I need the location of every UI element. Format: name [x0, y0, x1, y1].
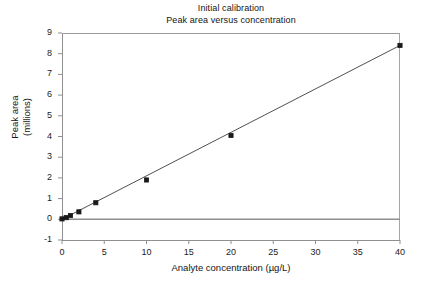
- calibration-chart-figure: Initial calibration Peak area versus con…: [0, 0, 422, 282]
- y-axis-title-line2: (millions): [21, 52, 33, 182]
- x-axis-line: [62, 240, 400, 241]
- x-tick-label: 25: [261, 247, 285, 257]
- plot-frame-right: [399, 33, 400, 240]
- x-tick-label: 35: [346, 247, 370, 257]
- y-tick-label: -1: [34, 234, 52, 244]
- y-tick-label: 4: [34, 131, 52, 141]
- x-tick-label: 0: [50, 247, 74, 257]
- y-tick-label: 6: [34, 89, 52, 99]
- x-tick-label: 5: [92, 247, 116, 257]
- y-tick-label: 1: [34, 193, 52, 203]
- y-tick-label: 8: [34, 48, 52, 58]
- y-tick-label: 2: [34, 172, 52, 182]
- y-tick-label: 9: [34, 27, 52, 37]
- chart-subtitle: Peak area versus concentration: [62, 14, 400, 26]
- x-tick-label: 30: [304, 247, 328, 257]
- plot-area: [62, 33, 400, 240]
- x-tick-label: 20: [219, 247, 243, 257]
- chart-title-block: Initial calibration Peak area versus con…: [62, 2, 400, 26]
- y-tick-label: 7: [34, 68, 52, 78]
- x-axis-title: Analyte concentration (µg/L): [62, 262, 400, 273]
- y-axis-title: Peak area (millions): [9, 52, 33, 182]
- x-tick-label: 10: [135, 247, 159, 257]
- chart-title: Initial calibration: [62, 2, 400, 14]
- x-tick-label: 40: [388, 247, 412, 257]
- y-tick-label: 0: [34, 213, 52, 223]
- y-tick-label: 5: [34, 110, 52, 120]
- y-tick-label: 3: [34, 151, 52, 161]
- y-axis-title-line1: Peak area: [9, 52, 21, 182]
- x-tick-label: 15: [177, 247, 201, 257]
